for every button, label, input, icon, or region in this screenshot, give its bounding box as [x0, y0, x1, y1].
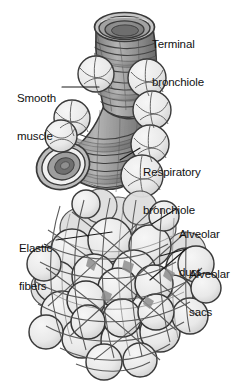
label-terminal-bronchiole-line2: bronchiole — [152, 76, 204, 89]
label-alveolar-sacs: Alveolar sacs — [189, 243, 230, 344]
terminal-bronchiole-lumen — [95, 13, 155, 42]
label-terminal-bronchiole-line1: Terminal — [152, 38, 204, 51]
label-smooth-muscle: Smooth muscle — [17, 67, 56, 168]
label-smooth-muscle-line2: muscle — [17, 130, 56, 143]
label-elastic-fibers-line2: fibers — [19, 280, 52, 293]
label-alveolar-sacs-line2: sacs — [189, 306, 230, 319]
label-terminal-bronchiole: Terminal bronchiole — [152, 13, 204, 114]
label-respiratory-bronchiole-line1: Respiratory — [143, 166, 201, 179]
label-elastic-fibers-line1: Elastic — [19, 242, 52, 255]
label-smooth-muscle-line1: Smooth — [17, 92, 56, 105]
anatomy-figure: Terminal bronchiole Smooth muscle Respir… — [0, 0, 252, 386]
label-alveolar-duct-line1: Alveolar — [179, 228, 220, 241]
label-alveolar-sacs-line1: Alveolar — [189, 268, 230, 281]
label-elastic-fibers: Elastic fibers — [19, 217, 52, 318]
